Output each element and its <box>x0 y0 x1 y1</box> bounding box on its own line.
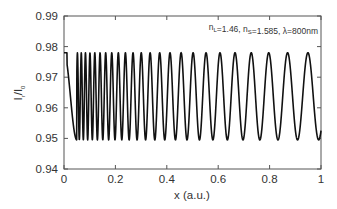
y-tick-label: 0.96 <box>36 102 58 114</box>
series-line <box>64 53 321 140</box>
chart: 0.940.950.960.970.980.99 00.20.40.60.81 … <box>0 0 337 209</box>
x-tick-label: 1 <box>318 173 324 185</box>
x-tick-label: 0.2 <box>107 173 123 185</box>
y-tick-label: 0.97 <box>36 71 58 83</box>
x-axis-label: x (a.u.) <box>174 189 210 201</box>
y-tick-label: 0.95 <box>36 132 58 144</box>
x-tick-label: 0.6 <box>210 173 226 185</box>
parameter-annotation: nL=1.46, nS=1.585, λ=800nm <box>209 22 318 36</box>
x-axis-ticks: 00.20.40.60.81 <box>61 16 324 185</box>
y-tick-label: 0.98 <box>36 41 58 53</box>
y-axis-label: Ir/I0 <box>12 85 26 101</box>
x-tick-label: 0.8 <box>262 173 278 185</box>
x-tick-label: 0.4 <box>159 173 176 185</box>
y-tick-label: 0.99 <box>36 10 58 22</box>
x-tick-label: 0 <box>61 173 67 185</box>
y-tick-label: 0.94 <box>36 163 59 175</box>
